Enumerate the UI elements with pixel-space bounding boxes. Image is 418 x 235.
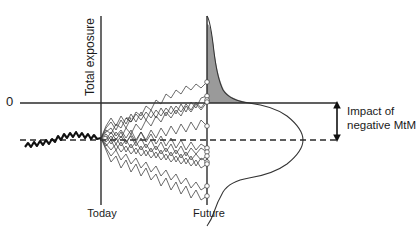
- simulated-paths-group: [101, 82, 207, 200]
- zero-axis-label: 0: [6, 94, 13, 109]
- simulated-path-10: [101, 138, 207, 200]
- future-exposure-distribution-curve: [207, 16, 303, 226]
- exposure-profile-figure: 0 Total exposure Today Future Impact of …: [0, 0, 418, 235]
- y-axis-label: Total exposure: [83, 18, 97, 96]
- today-axis-label: Today: [78, 207, 126, 220]
- positive-exposure-tail-shading: [207, 24, 300, 104]
- impact-measure-arrow: [333, 101, 341, 142]
- impact-annotation-label: Impact of negative MtM: [347, 105, 416, 132]
- impact-annotation-line-1: Impact of: [347, 105, 416, 119]
- simulated-path-07: [101, 100, 207, 138]
- future-axis-label: Future: [186, 207, 232, 220]
- impact-annotation-line-2: negative MtM: [347, 119, 416, 133]
